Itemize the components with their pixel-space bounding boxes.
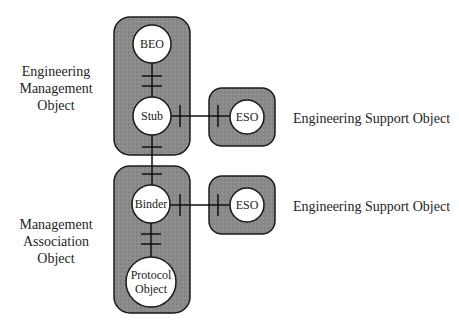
node-binder: Binder	[132, 185, 170, 223]
label-engineering-support-object-top: Engineering Support Object	[293, 110, 450, 127]
label-management-association-object: Management Association Object	[10, 216, 102, 267]
node-eso-2: ESO	[230, 188, 264, 222]
node-label: Object	[135, 282, 168, 296]
node-protocol-object: ProtocolObject	[126, 257, 176, 307]
label-engineering-management-object: Engineering Management Object	[10, 63, 102, 114]
node-label: Binder	[135, 197, 168, 211]
node-label: ESO	[236, 198, 259, 212]
node-stub: Stub	[133, 97, 171, 135]
node-label: Protocol	[131, 268, 172, 282]
diagram-svg: BEOStubESOBinderProtocolObjectESO	[0, 0, 459, 327]
node-beo: BEO	[133, 25, 171, 63]
node-label: ESO	[236, 110, 259, 124]
node-eso-1: ESO	[230, 100, 264, 134]
node-label: BEO	[140, 37, 164, 51]
diagram-canvas: BEOStubESOBinderProtocolObjectESO Engine…	[0, 0, 459, 327]
label-engineering-support-object-bottom: Engineering Support Object	[293, 198, 450, 215]
node-label: Stub	[141, 109, 163, 123]
